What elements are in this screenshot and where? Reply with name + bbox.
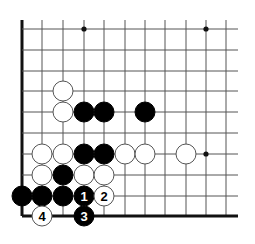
- white-stone: [94, 165, 114, 185]
- white-stone-icon: [94, 165, 114, 185]
- move-number-label: 3: [80, 209, 87, 224]
- white-stone: [32, 165, 52, 185]
- white-stone: [176, 144, 196, 164]
- black-stone: [74, 102, 94, 122]
- move-number-label: 1: [80, 189, 87, 204]
- black-stone-icon: [74, 144, 94, 164]
- move-number-label: 4: [38, 209, 46, 224]
- white-stone: [32, 144, 52, 164]
- black-stone-move-3: 3: [74, 206, 94, 226]
- white-stone-icon: [53, 102, 73, 122]
- white-stone-icon: [135, 144, 155, 164]
- white-stone: [53, 102, 73, 122]
- go-board-diagram: 1234: [0, 0, 255, 244]
- white-stone-icon: [53, 81, 73, 101]
- star-point-icon: [203, 26, 208, 31]
- black-stone: [135, 102, 155, 122]
- white-stone-move-2: 2: [94, 186, 114, 206]
- star-point-icon: [81, 26, 86, 31]
- white-stone-icon: [53, 144, 73, 164]
- white-stone-icon: [32, 165, 52, 185]
- white-stone: [53, 144, 73, 164]
- white-stone-move-4: 4: [32, 206, 52, 226]
- white-stone: [135, 144, 155, 164]
- white-stone: [74, 165, 94, 185]
- black-stone: [53, 186, 73, 206]
- black-stone: [12, 186, 32, 206]
- white-stone-icon: [32, 144, 52, 164]
- black-stone-icon: [94, 102, 114, 122]
- black-stone: [53, 165, 73, 185]
- black-stone-icon: [53, 165, 73, 185]
- black-stone-icon: [74, 102, 94, 122]
- black-stone: [32, 186, 52, 206]
- black-stone: [94, 102, 114, 122]
- black-stone-icon: [12, 186, 32, 206]
- star-point-icon: [203, 151, 208, 156]
- black-stone-icon: [94, 144, 114, 164]
- black-stone-move-1: 1: [74, 186, 94, 206]
- black-stone-icon: [135, 102, 155, 122]
- black-stone-icon: [32, 186, 52, 206]
- white-stone-icon: [115, 144, 135, 164]
- white-stone-icon: [74, 165, 94, 185]
- white-stone-icon: [176, 144, 196, 164]
- black-stone-icon: [53, 186, 73, 206]
- move-number-label: 2: [100, 189, 107, 204]
- black-stone: [74, 144, 94, 164]
- black-stone: [94, 144, 114, 164]
- white-stone: [53, 81, 73, 101]
- white-stone: [115, 144, 135, 164]
